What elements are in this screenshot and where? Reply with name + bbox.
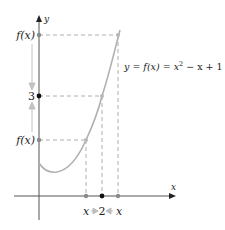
equation-rhs: − x + 1 <box>183 61 222 72</box>
equation-label: y = f(x) = x2 − x + 1 <box>123 60 223 72</box>
limit-diagram: x y f(x) 3 f(x) x 2 x y = f(x) = x2 − x … <box>0 0 225 230</box>
parabola-curve <box>39 30 120 172</box>
y-label-lower-fx: f(x) <box>15 134 35 147</box>
y-axis-label: y <box>43 14 50 24</box>
x-right-arrow-icon <box>93 208 98 214</box>
y-axis-arrow-icon <box>36 15 42 22</box>
y-up-arrow-icon <box>29 102 35 109</box>
y-down-arrow-icon <box>29 83 35 90</box>
x-left-arrow-icon <box>106 208 111 214</box>
x-axis-label: x <box>171 182 176 192</box>
y-point-limit <box>37 94 42 99</box>
x-point-right <box>116 194 120 198</box>
x-label-left-x: x <box>83 205 90 218</box>
curve-point-lower <box>84 138 88 142</box>
y-label-limit-3: 3 <box>28 90 35 103</box>
x-point-limit <box>100 194 105 199</box>
x-axis-arrow-icon <box>169 193 176 199</box>
points <box>37 33 121 199</box>
x-point-left <box>84 194 88 198</box>
curve-point-limit <box>100 94 104 98</box>
y-approach-arrows <box>29 44 35 132</box>
y-label-upper-fx: f(x) <box>15 29 35 42</box>
curve-point-upper <box>116 33 120 37</box>
axes <box>14 19 172 220</box>
x-label-limit-2: 2 <box>99 205 106 218</box>
x-label-right-x: x <box>116 205 123 218</box>
y-point-upper <box>37 33 41 37</box>
equation-lhs: y = f(x) = x <box>123 61 180 72</box>
y-point-lower <box>37 138 41 142</box>
